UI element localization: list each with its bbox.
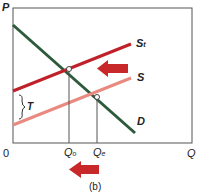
qo-label: Qo xyxy=(64,147,76,158)
taxed-equilibrium-point xyxy=(67,67,72,72)
figure-caption: (b) xyxy=(89,182,101,192)
supply-label: S xyxy=(137,72,144,83)
tax-brace-icon xyxy=(19,95,25,119)
supply-taxed-label: St xyxy=(136,38,146,49)
tax-label: T xyxy=(27,102,33,112)
demand-label: D xyxy=(137,116,145,127)
quantity-shift-arrow-icon xyxy=(69,161,99,178)
origin-label: 0 xyxy=(3,148,9,159)
equilibrium-point xyxy=(95,95,100,100)
x-axis-label: Q xyxy=(187,148,196,159)
supply-demand-diagram xyxy=(0,0,197,195)
supply-shift-arrow-icon xyxy=(97,60,128,77)
qe-label: Qe xyxy=(93,147,105,158)
plot-frame xyxy=(13,8,192,143)
y-axis-label: P xyxy=(2,2,9,13)
